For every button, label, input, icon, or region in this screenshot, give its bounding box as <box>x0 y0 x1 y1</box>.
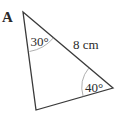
angle-label-top: 30° <box>31 34 49 49</box>
triangle-outline <box>23 12 113 110</box>
triangle-figure: A 30° 40° 8 cm <box>0 0 119 123</box>
angle-label-right: 40° <box>85 80 103 95</box>
figure-label: A <box>2 9 13 25</box>
side-length-label: 8 cm <box>73 37 99 52</box>
triangle-diagram: A 30° 40° 8 cm <box>0 0 119 123</box>
